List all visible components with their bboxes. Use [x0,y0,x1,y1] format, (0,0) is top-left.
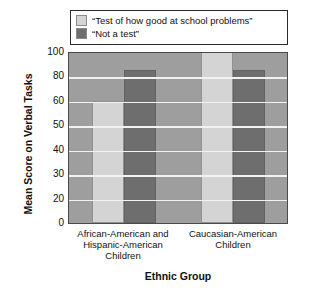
y-axis-tick-label: 30 [53,169,64,179]
legend-swatch-test-condition [76,15,87,26]
bar [92,101,124,223]
y-axis-title: Mean Score on Verbal Tasks [22,64,34,224]
bar-group [178,53,287,223]
y-axis-tick-label: 40 [53,145,64,155]
legend-label: “Not a test” [92,28,139,39]
bar-group [69,53,178,223]
legend-label: “Test of how good at school problems” [92,15,253,26]
y-axis-tick-label: 20 [53,194,64,204]
x-axis-category-label-line: Children [178,239,288,250]
y-axis-tick-label: 80 [53,71,64,81]
legend-item: “Test of how good at school problems” [76,14,282,27]
x-axis-title: Ethnic Group [68,270,288,282]
x-axis-category-label-line: Children [68,250,178,261]
x-axis-category-label-line: Hispanic-American [68,239,178,250]
y-axis-tick-label: 0 [58,218,64,228]
y-axis-tick-label: 50 [53,120,64,130]
x-axis-category-label: Caucasian-AmericanChildren [178,228,288,261]
x-axis-category-label-line: African-American and [68,228,178,239]
x-axis-category-label: African-American andHispanic-AmericanChi… [68,228,178,261]
bar [201,52,233,223]
bar-groups [69,53,287,223]
x-axis-category-labels: African-American andHispanic-AmericanChi… [68,228,288,261]
y-axis-tick-label: 100 [47,47,64,57]
plot-area [68,52,288,224]
x-axis-category-label-line: Caucasian-American [178,228,288,239]
y-axis-tick-label: 60 [53,96,64,106]
chart-legend: “Test of how good at school problems” “N… [70,10,288,45]
legend-item: “Not a test” [76,27,282,40]
bar [233,70,265,223]
bar [124,70,156,223]
y-axis-tick-labels: 1008060504030200 [38,52,64,224]
legend-swatch-not-a-test-condition [76,28,87,39]
